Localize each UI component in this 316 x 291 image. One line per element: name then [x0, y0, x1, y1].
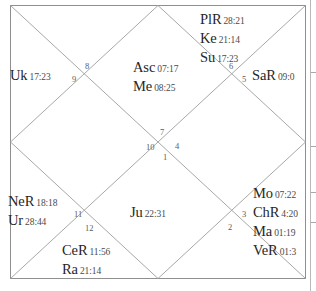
house-number-9: 9	[72, 74, 76, 84]
planet-row-su: Su17:23	[200, 48, 245, 67]
planet-row-ver: VeR01:3	[253, 241, 298, 260]
planet-name: Ju	[130, 204, 143, 220]
house-number-5: 5	[242, 74, 246, 84]
planet-degree: 11:56	[89, 247, 110, 257]
planet-name: Ra	[62, 261, 78, 277]
side-panel-tick-3	[311, 222, 316, 223]
planet-name: Asc	[133, 59, 155, 75]
side-panel-tick-0	[311, 72, 316, 73]
planet-name: SaR	[252, 67, 276, 83]
vedic-chart-container: 123456789101112 PlR28:21Ke21:14Su17:23Sa…	[0, 0, 316, 291]
planet-degree: 08:25	[154, 83, 175, 93]
planet-row-plr: PlR28:21	[200, 10, 245, 29]
block-house-3: Mo07:22ChR4:20Ma01:19VeR01:3	[253, 184, 298, 260]
planet-row-mo: Mo07:22	[253, 184, 298, 203]
planet-name: VeR	[253, 242, 278, 258]
house-number-2: 2	[228, 222, 232, 232]
block-house-1: Ju22:31	[130, 203, 166, 222]
planet-name: PlR	[200, 11, 221, 27]
planet-degree: 21:14	[80, 266, 101, 276]
planet-row-ke: Ke21:14	[200, 29, 245, 48]
planet-degree: 01:19	[274, 228, 295, 238]
planet-degree: 4:20	[281, 209, 298, 219]
planet-degree: 09:0	[278, 72, 295, 82]
block-house-7-asc: Asc07:17Me08:25	[133, 58, 178, 96]
planet-degree: 28:44	[25, 217, 46, 227]
house-number-7: 7	[160, 127, 164, 137]
planet-row-ma: Ma01:19	[253, 222, 298, 241]
planet-name: Su	[200, 49, 215, 65]
planet-row-ra: Ra21:14	[62, 260, 110, 279]
planet-row-sar: SaR09:0	[252, 66, 294, 85]
planet-degree: 07:17	[157, 64, 178, 74]
planet-degree: 22:31	[145, 209, 166, 219]
planet-name: Ur	[8, 212, 23, 228]
planet-row-ner: NeR18:18	[8, 192, 57, 211]
planet-degree: 17:23	[30, 72, 51, 82]
planet-row-ju: Ju22:31	[130, 203, 166, 222]
side-panel-edge	[310, 0, 316, 291]
planet-degree: 21:14	[219, 35, 240, 45]
planet-name: Me	[133, 78, 152, 94]
planet-name: Mo	[253, 185, 273, 201]
block-house-6: PlR28:21Ke21:14Su17:23	[200, 10, 245, 67]
house-number-4: 4	[175, 141, 179, 151]
house-number-11: 11	[74, 209, 82, 219]
planet-row-chr: ChR4:20	[253, 203, 298, 222]
planet-row-cer: CeR11:56	[62, 241, 110, 260]
planet-row-asc: Asc07:17	[133, 58, 178, 77]
house-number-10: 10	[146, 142, 155, 152]
block-house-9: Uk17:23	[10, 66, 51, 85]
block-house-12: CeR11:56Ra21:14	[62, 241, 110, 279]
block-house-5: SaR09:0	[252, 66, 294, 85]
house-number-8: 8	[85, 61, 89, 71]
planet-degree: 18:18	[36, 198, 57, 208]
side-panel-tick-2	[311, 192, 316, 193]
house-number-1: 1	[163, 152, 167, 162]
planet-degree: 28:21	[223, 16, 244, 26]
planet-name: ChR	[253, 204, 279, 220]
side-panel-tick-1	[311, 146, 316, 147]
planet-name: NeR	[8, 193, 34, 209]
planet-name: Ke	[200, 30, 217, 46]
planet-name: CeR	[62, 242, 87, 258]
planet-row-uk: Uk17:23	[10, 66, 51, 85]
house-number-3: 3	[242, 209, 246, 219]
planet-name: Uk	[10, 67, 28, 83]
planet-row-ur: Ur28:44	[8, 211, 57, 230]
house-number-12: 12	[85, 223, 94, 233]
planet-degree: 07:22	[275, 190, 296, 200]
planet-row-me: Me08:25	[133, 77, 178, 96]
block-house-11: NeR18:18Ur28:44	[8, 192, 57, 230]
planet-name: Ma	[253, 223, 272, 239]
planet-degree: 01:3	[280, 247, 297, 257]
planet-degree: 17:23	[217, 54, 238, 64]
